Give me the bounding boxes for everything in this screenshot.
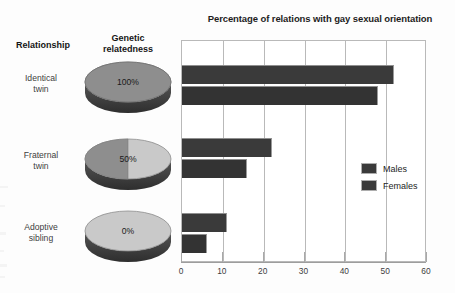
chart-title: Percentage of relations with gay sexual … <box>195 13 445 24</box>
relatedness-pie-adoptive-sibling: 0% <box>79 207 177 263</box>
x-tick-40 <box>344 252 345 262</box>
bar-females-fraternal-twin <box>182 159 247 178</box>
x-tick-20 <box>263 252 264 262</box>
row-label-line1: Identical <box>25 73 57 83</box>
x-tick-30 <box>304 252 305 262</box>
scan-artifact <box>0 250 4 252</box>
legend-item-females: Females <box>361 177 418 194</box>
legend-item-males: Males <box>361 160 418 177</box>
bar-males-adoptive-sibling <box>182 213 227 232</box>
bar-males-fraternal-twin <box>182 138 272 157</box>
row-label-line1: Adoptive <box>24 222 57 232</box>
relatedness-pie-identical-twin: 100% <box>79 58 177 114</box>
plot-area <box>181 40 426 262</box>
scan-artifact <box>0 186 8 188</box>
x-tick-60 <box>426 252 427 262</box>
relatedness-value: 0% <box>79 226 177 236</box>
x-tick-label-20: 20 <box>250 266 276 276</box>
row-label-line2: sibling <box>29 233 53 243</box>
column-header-relationship: Relationship <box>4 40 82 51</box>
bar-females-identical-twin <box>182 86 378 105</box>
scan-artifact <box>0 264 7 267</box>
row-label-fraternal-twin: Fraternal twin <box>2 150 80 171</box>
bar-males-identical-twin <box>182 65 394 84</box>
legend-label: Females <box>383 181 418 191</box>
row-label-line2: twin <box>33 84 48 94</box>
relatedness-value: 50% <box>79 154 177 164</box>
row-label-identical-twin: Identical twin <box>2 73 80 94</box>
relatedness-value: 100% <box>79 77 177 87</box>
x-tick-label-30: 30 <box>291 266 317 276</box>
column-header-line2: relatedness <box>103 44 153 54</box>
x-tick-label-40: 40 <box>331 266 357 276</box>
x-tick-label-0: 0 <box>168 266 194 276</box>
row-label-adoptive-sibling: Adoptive sibling <box>2 222 80 243</box>
scan-artifact <box>0 205 5 207</box>
row-label-line1: Fraternal <box>24 150 58 160</box>
row-label-line2: twin <box>33 161 48 171</box>
x-tick-label-50: 50 <box>372 266 398 276</box>
scan-artifact <box>0 276 5 278</box>
x-tick-50 <box>385 252 386 262</box>
x-axis-line <box>181 262 426 263</box>
x-tick-label-10: 10 <box>209 266 235 276</box>
column-header-genetic-relatedness: Genetic relatedness <box>82 33 174 55</box>
chart-legend: MalesFemales <box>361 160 418 194</box>
legend-label: Males <box>383 164 407 174</box>
legend-swatch-icon <box>361 180 377 191</box>
column-header-line1: Genetic <box>111 33 144 43</box>
bar-females-adoptive-sibling <box>182 234 207 253</box>
x-tick-10 <box>222 252 223 262</box>
x-tick-label-60: 60 <box>413 266 439 276</box>
relatedness-pie-fraternal-twin: 50% <box>79 135 177 191</box>
genetic-relatedness-figure: Percentage of relations with gay sexual … <box>0 0 455 293</box>
legend-swatch-icon <box>361 163 377 174</box>
x-tick-0 <box>181 252 182 262</box>
